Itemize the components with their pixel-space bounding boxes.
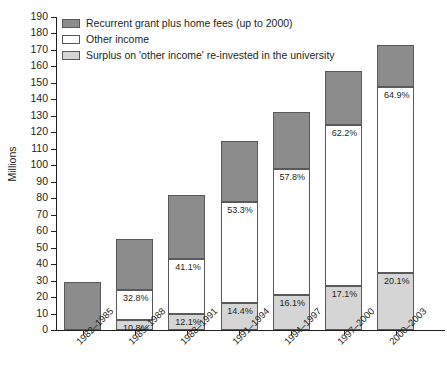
y-tick-140: 140 <box>51 99 56 100</box>
legend-label-surplus: Surplus on 'other income' re-invested in… <box>86 49 335 61</box>
y-tick-label: 70 <box>36 208 48 221</box>
bar-chart: Millions 0102030405060708090100110120130… <box>0 0 447 385</box>
y-tick-130: 130 <box>51 116 56 117</box>
chart-legend: Recurrent grant plus home fees (up to 20… <box>62 16 335 64</box>
legend-item-other-income: Other income <box>62 32 335 46</box>
y-tick-100: 100 <box>51 165 56 166</box>
y-tick-60: 60 <box>51 231 56 232</box>
bar-segment-label: 41.1% <box>169 262 206 273</box>
legend-item-recurrent-grant: Recurrent grant plus home fees (up to 20… <box>62 16 335 30</box>
y-tick-label: 110 <box>31 142 48 155</box>
y-tick-label: 180 <box>30 26 48 39</box>
y-tick-label: 130 <box>30 109 48 122</box>
legend-swatch-icon-other-income <box>62 35 80 44</box>
y-tick-label: 140 <box>30 92 48 105</box>
bar-segment-label: 64.9% <box>378 90 415 101</box>
y-axis-title: Millions <box>6 129 18 199</box>
y-tick-label: 100 <box>30 158 48 171</box>
y-tick-80: 80 <box>51 198 56 199</box>
y-tick-110: 110 <box>51 149 56 150</box>
bar-segment-other-income: 57.8% <box>273 169 310 295</box>
y-tick-70: 70 <box>51 215 56 216</box>
bar-segment-label: 53.3% <box>222 205 259 216</box>
y-tick-label: 20 <box>36 290 48 303</box>
y-tick-label: 90 <box>36 175 48 188</box>
bar-segment-label: 32.8% <box>117 293 154 304</box>
bar-segment-label: 16.1% <box>274 298 311 309</box>
y-tick-label: 0 <box>42 323 48 336</box>
y-tick-label: 40 <box>36 257 48 270</box>
bar-1994-1997: 16.1%57.8% <box>273 112 310 330</box>
y-tick-40: 40 <box>51 264 56 265</box>
bar-1991-1994: 14.4%53.3% <box>221 141 258 330</box>
y-tick-label: 120 <box>30 125 48 138</box>
y-tick-50: 50 <box>51 248 56 249</box>
legend-swatch-icon-recurrent-grant <box>62 19 80 28</box>
bar-segment-other-income: 41.1% <box>168 259 205 314</box>
y-tick-label: 160 <box>30 59 48 72</box>
y-tick-0: 0 <box>51 330 56 331</box>
y-tick-170: 170 <box>51 50 56 51</box>
plot-area: 0102030405060708090100110120130140150160… <box>56 17 445 331</box>
bar-segment-other-income: 53.3% <box>221 202 258 302</box>
y-axis-line <box>56 17 57 331</box>
y-tick-10: 10 <box>51 314 56 315</box>
legend-item-surplus: Surplus on 'other income' re-invested in… <box>62 48 335 62</box>
bar-segment-recurrent-grant <box>168 195 205 259</box>
bar-segment-other-income: 64.9% <box>377 87 414 272</box>
bar-segment-recurrent-grant <box>273 112 310 169</box>
bar-1988-1991: 12.1%41.1% <box>168 195 205 330</box>
bar-segment-other-income: 62.2% <box>325 125 362 286</box>
bar-segment-recurrent-grant <box>325 71 362 124</box>
y-tick-90: 90 <box>51 182 56 183</box>
y-tick-label: 10 <box>36 307 48 320</box>
bar-1997-2000: 17.1%62.2% <box>325 71 362 330</box>
bar-segment-label: 20.1% <box>378 276 415 287</box>
y-tick-label: 60 <box>36 224 48 237</box>
bar-segment-label: 57.8% <box>274 172 311 183</box>
legend-swatch-icon-surplus <box>62 51 80 60</box>
bar-segment-label: 62.2% <box>326 128 363 139</box>
y-tick-20: 20 <box>51 297 56 298</box>
y-tick-label: 150 <box>30 76 48 89</box>
y-tick-160: 160 <box>51 66 56 67</box>
y-tick-label: 170 <box>30 43 48 56</box>
y-tick-120: 120 <box>51 132 56 133</box>
y-tick-150: 150 <box>51 83 56 84</box>
bar-segment-recurrent-grant <box>221 141 258 202</box>
y-tick-label: 80 <box>36 191 48 204</box>
bar-segment-label: 17.1% <box>326 289 363 300</box>
y-tick-label: 30 <box>36 274 48 287</box>
bar-2000-2003: 20.1%64.9% <box>377 45 414 330</box>
y-tick-180: 180 <box>51 33 56 34</box>
y-tick-label: 50 <box>36 241 48 254</box>
legend-label-recurrent-grant: Recurrent grant plus home fees (up to 20… <box>86 17 293 29</box>
bar-segment-recurrent-grant <box>116 239 153 290</box>
y-tick-190: 190 <box>51 17 56 18</box>
bar-segment-recurrent-grant <box>377 45 414 88</box>
legend-label-other-income: Other income <box>86 33 149 45</box>
y-tick-label: 190 <box>30 10 48 23</box>
y-tick-30: 30 <box>51 281 56 282</box>
